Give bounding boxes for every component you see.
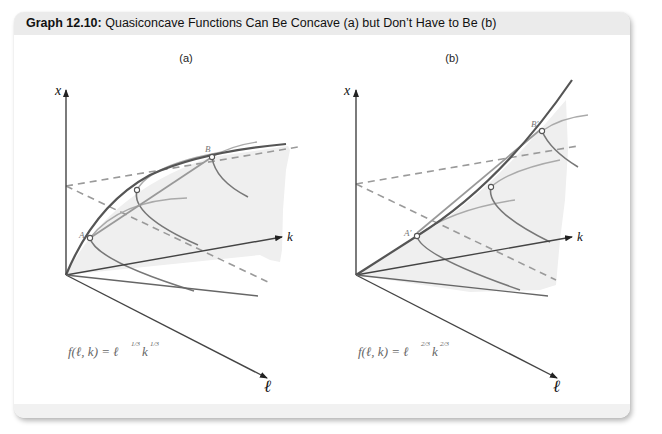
ray-a <box>66 275 258 296</box>
panel-a-label: (a) <box>179 52 192 64</box>
svg-text:f(ℓ, k) = ℓ: f(ℓ, k) = ℓ <box>358 344 409 359</box>
formula-b: f(ℓ, k) = ℓ 2/3 k 2/3 <box>358 340 449 359</box>
svg-text:2/3: 2/3 <box>440 340 449 348</box>
svg-text:f(ℓ, k) = ℓ: f(ℓ, k) = ℓ <box>68 344 119 359</box>
panel-b: (b) A′ B′ x k ℓ f(ℓ <box>343 52 588 396</box>
panel-b-label: (b) <box>445 52 458 64</box>
l-axis-a <box>66 275 267 378</box>
k-axis-label-b: k <box>577 229 583 244</box>
panel-a: (a) A B x k ℓ f(ℓ, <box>54 52 298 396</box>
l-axis-label-b: ℓ <box>553 377 560 396</box>
point-B <box>209 154 214 159</box>
point-B-prime <box>539 128 544 133</box>
point-A <box>87 235 92 240</box>
svg-text:k: k <box>142 344 148 359</box>
svg-text:2/3: 2/3 <box>421 340 430 348</box>
svg-text:1/3: 1/3 <box>131 340 140 348</box>
formula-a: f(ℓ, k) = ℓ 1/3 k 1/3 <box>68 340 159 359</box>
k-axis-label-a: k <box>287 229 293 244</box>
x-axis-label-b: x <box>343 83 351 98</box>
x-axis-label-a: x <box>54 83 62 98</box>
point-mid-a <box>134 187 139 192</box>
point-mid-b <box>488 184 493 189</box>
l-axis-label-a: ℓ <box>264 377 271 396</box>
point-A-prime <box>414 233 419 238</box>
label-A: A <box>78 230 85 240</box>
svg-text:1/3: 1/3 <box>150 340 159 348</box>
label-B: B <box>205 144 211 154</box>
label-A-prime: A′ <box>403 228 412 238</box>
label-B-prime: B′ <box>531 119 539 129</box>
svg-text:k: k <box>432 344 438 359</box>
figure-graphics: (a) A B x k ℓ f(ℓ, <box>0 0 662 434</box>
l-axis-b <box>356 275 557 378</box>
